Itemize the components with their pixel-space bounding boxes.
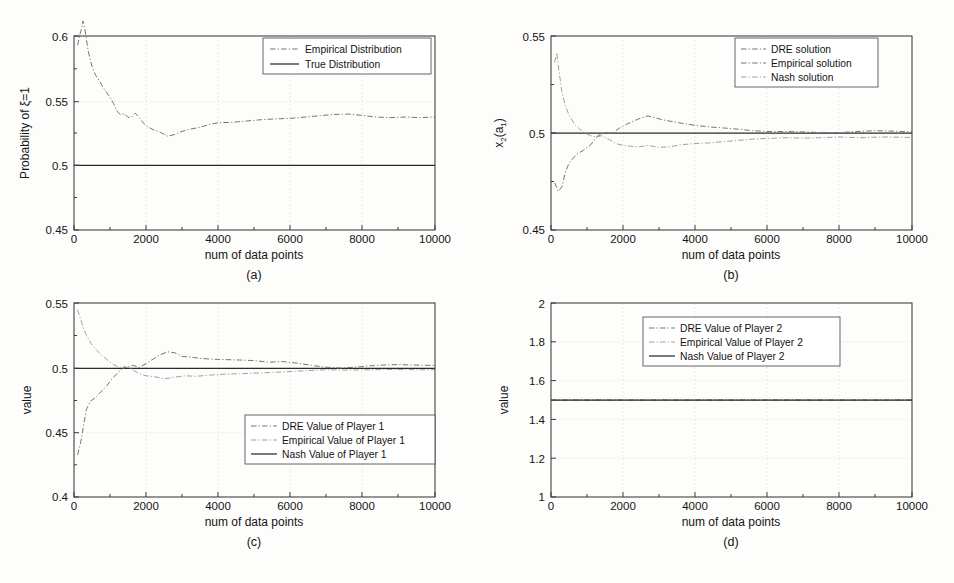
panel-a-xtick-4: 8000	[349, 233, 375, 245]
panel-b-xaxis-label: num of data points	[682, 248, 781, 262]
panel-c-ytick-1: 0.45	[46, 427, 68, 439]
panel-a-caption: (a)	[246, 268, 261, 282]
panel-d-xtick-1: 2000	[610, 500, 636, 512]
panel-a-ytick-2: 0.55	[46, 96, 68, 108]
panel-b-caption: (b)	[723, 268, 738, 282]
panel-c-xtick-0: 0	[71, 500, 77, 512]
panel-c-caption: (c)	[247, 535, 262, 549]
panel-d-xtick-0: 0	[548, 500, 554, 512]
svg-text:x2(a1): x2(a1)	[492, 118, 508, 148]
panel-d-caption: (d)	[723, 535, 738, 549]
panel-b-legend-label-2: Nash solution	[771, 72, 834, 83]
figure-panel-c: 0 2000 4000 6000 8000 10000 0.4 0.45 0.5…	[0, 291, 477, 583]
panel-c-xtick-1: 2000	[133, 500, 159, 512]
panel-d-legend: DRE Value of Player 2 Empirical Value of…	[643, 317, 840, 366]
panel-c-legend: DRE Value of Player 1 Empirical Value of…	[245, 415, 435, 464]
panel-d-xtick-5: 10000	[896, 500, 928, 512]
panel-b-ytick-2: 0.55	[523, 31, 545, 43]
panel-d-xtick-3: 6000	[754, 500, 780, 512]
panel-b-ytick-0: 0.45	[523, 224, 545, 236]
panel-a-legend: Empirical Distribution True Distribution	[263, 38, 431, 74]
panel-a-xtick-2: 4000	[205, 233, 231, 245]
panel-c-ytick-3: 0.55	[46, 298, 68, 310]
panel-b-legend-label-0: DRE solution	[771, 44, 831, 55]
panel-d-legend-label-1: Empirical Value of Player 2	[680, 337, 803, 348]
panel-b-xtick-4: 8000	[826, 233, 852, 245]
panel-b-xtick-1: 2000	[610, 233, 636, 245]
panel-c-xaxis-label: num of data points	[205, 515, 304, 529]
panel-d-legend-label-0: DRE Value of Player 2	[680, 323, 783, 334]
panel-c-xtick-2: 4000	[205, 500, 231, 512]
figure-panel-a: 0 2000 4000 6000 8000 10000 0.45 0.5 0.5…	[0, 0, 477, 292]
panel-d-xaxis-label: num of data points	[682, 515, 781, 529]
panel-b-xtick-0: 0	[548, 233, 554, 245]
panel-a-legend-label-1: True Distribution	[305, 59, 380, 70]
panel-b-ylabel-end: )	[492, 118, 506, 122]
figure-panel-d: 0 2000 4000 6000 8000 10000 1 1.2 1.4 1.…	[477, 291, 954, 583]
panel-c-ytick-0: 0.4	[52, 491, 69, 503]
panel-b-legend: DRE solution Empirical solution Nash sol…	[735, 38, 878, 87]
panel-d-ytick-5: 2	[539, 298, 545, 310]
panel-d-ytick-2: 1.4	[529, 414, 546, 426]
figure-panel-b: 0 2000 4000 6000 8000 10000 0.45 0.5 0.5…	[477, 0, 954, 292]
panel-a-plot: 0 2000 4000 6000 8000 10000 0.45 0.5 0.5…	[0, 0, 477, 292]
panel-c-xtick-3: 6000	[277, 500, 303, 512]
panel-c-legend-label-0: DRE Value of Player 1	[282, 421, 385, 432]
panel-b-ylabel-mid: (a	[492, 126, 506, 137]
panel-d-plot: 0 2000 4000 6000 8000 10000 1 1.2 1.4 1.…	[477, 291, 954, 583]
panel-b-legend-label-1: Empirical solution	[771, 58, 852, 69]
panel-b-xtick-5: 10000	[896, 233, 928, 245]
panel-a-xtick-1: 2000	[133, 233, 159, 245]
panel-c-plot: 0 2000 4000 6000 8000 10000 0.4 0.45 0.5…	[0, 291, 477, 583]
panel-a-ytick-1: 0.5	[52, 160, 68, 172]
panel-a-legend-label-0: Empirical Distribution	[305, 44, 402, 55]
panel-c-ytick-2: 0.5	[52, 363, 68, 375]
panel-b-yaxis-label: x2(a1)	[492, 118, 508, 148]
panel-b-ytick-1: 0.5	[529, 128, 545, 140]
panel-d-ytick-0: 1	[539, 491, 545, 503]
panel-a-ytick-3: 0.6	[52, 31, 68, 43]
panel-d-xtick-4: 8000	[826, 500, 852, 512]
panel-b-xtick-2: 4000	[682, 233, 708, 245]
panel-c-yaxis-label: value	[20, 385, 34, 414]
panel-d-ytick-1: 1.2	[529, 453, 545, 465]
panel-c-xtick-5: 10000	[419, 500, 451, 512]
panel-a-xtick-0: 0	[71, 233, 77, 245]
panel-a-ytick-0: 0.45	[46, 224, 68, 236]
panel-d-legend-label-2: Nash Value of Player 2	[680, 351, 785, 362]
panel-a-xtick-3: 6000	[277, 233, 303, 245]
panel-d-yaxis-label: value	[497, 385, 511, 414]
panel-a-xaxis-label: num of data points	[205, 248, 304, 262]
panel-c-legend-label-1: Empirical Value of Player 1	[282, 435, 405, 446]
panel-b-xtick-3: 6000	[754, 233, 780, 245]
panel-d-ytick-4: 1.8	[529, 336, 545, 348]
panel-d-ytick-3: 1.6	[529, 375, 545, 387]
panel-a-yaxis-label: Probability of ξ=1	[18, 87, 32, 179]
panel-c-xtick-4: 8000	[349, 500, 375, 512]
panel-b-plot: 0 2000 4000 6000 8000 10000 0.45 0.5 0.5…	[477, 0, 954, 292]
panel-a-xtick-5: 10000	[419, 233, 451, 245]
panel-d-xtick-2: 4000	[682, 500, 708, 512]
panel-c-legend-label-2: Nash Value of Player 1	[282, 449, 387, 460]
